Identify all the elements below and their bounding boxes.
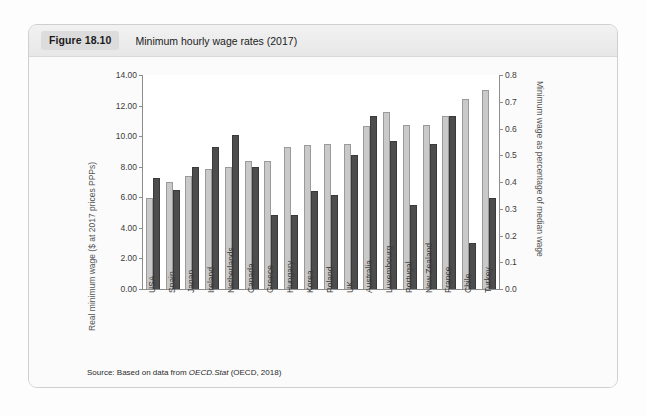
bar-group xyxy=(363,75,377,289)
y-axis-right-title: Minimum wage as percentage of median wag… xyxy=(535,81,545,257)
x-axis-label: Korea xyxy=(300,291,320,357)
figure-header: Figure 18.10 Minimum hourly wage rates (… xyxy=(29,25,617,57)
x-axis-label-text: Spain xyxy=(167,271,177,293)
bar-group xyxy=(482,75,496,289)
bar-group xyxy=(304,75,318,289)
y-tick-right: 0.7 xyxy=(505,97,517,107)
x-axis-label-text: Greece xyxy=(265,265,275,293)
y-tick-left: 0.00 xyxy=(120,284,137,294)
y-tick-right: 0.4 xyxy=(505,177,517,187)
x-axis-label: Hungary xyxy=(280,291,300,357)
x-axis-label-text: Turkey xyxy=(483,267,493,293)
bar-group xyxy=(284,75,298,289)
x-axis-labels: USASpainJapanIrelandNetherlandsCanadaGre… xyxy=(142,291,498,357)
x-axis-label: Ireland xyxy=(201,291,221,357)
y-tick-mark-left xyxy=(139,289,143,290)
x-axis-label-text: Chile xyxy=(463,274,473,293)
y-tick-right: 0.0 xyxy=(505,284,517,294)
plot-area: 0.002.004.006.008.0010.0012.0014.00 0.00… xyxy=(142,75,500,290)
bar-group xyxy=(245,75,259,289)
y-tick-left: 2.00 xyxy=(120,253,137,263)
x-axis-label: Chile xyxy=(458,291,478,357)
x-axis-label: Luxembourg xyxy=(379,291,399,357)
x-axis-label-text: Korea xyxy=(305,270,315,293)
y-tick-left: 10.00 xyxy=(116,131,137,141)
y-tick-mark-right xyxy=(499,236,503,237)
y-tick-left: 4.00 xyxy=(120,223,137,233)
x-axis-label: New Zealand xyxy=(419,291,439,357)
figure-number-badge: Figure 18.10 xyxy=(41,31,119,50)
x-axis-label: Poland xyxy=(320,291,340,357)
figure-body: Real minimum wage ($ at 2017 prices PPPs… xyxy=(29,57,617,388)
y-tick-mark-right xyxy=(499,209,503,210)
x-axis-label-text: Canada xyxy=(246,263,256,293)
x-axis-label: UK xyxy=(340,291,360,357)
chart: Real minimum wage ($ at 2017 prices PPPs… xyxy=(85,67,585,357)
x-axis-label-text: France xyxy=(443,267,453,293)
x-axis-label: Portugal xyxy=(399,291,419,357)
y-tick-mark-right xyxy=(499,155,503,156)
bar-group xyxy=(462,75,476,289)
y-tick-right: 0.3 xyxy=(505,204,517,214)
bar-groups xyxy=(143,75,499,289)
bar-real-minimum-wage xyxy=(442,116,449,289)
x-axis-label-text: Japan xyxy=(186,270,196,293)
x-axis-label: USA xyxy=(142,291,162,357)
bar-minimum-wage-percent-median xyxy=(153,178,160,289)
y-tick-mark-right xyxy=(499,102,503,103)
bar-group xyxy=(185,75,199,289)
x-axis-label-text: USA xyxy=(147,276,157,293)
bar-group xyxy=(264,75,278,289)
bar-real-minimum-wage xyxy=(344,144,351,289)
screenshot-root: Figure 18.10 Minimum hourly wage rates (… xyxy=(0,0,646,416)
y-tick-left: 14.00 xyxy=(116,70,137,80)
x-axis-label-text: Luxembourg xyxy=(384,246,394,293)
x-axis-label-text: Netherlands xyxy=(226,247,236,293)
bar-minimum-wage-percent-median xyxy=(351,155,358,289)
bar-real-minimum-wage xyxy=(482,90,489,289)
x-axis-label: France xyxy=(439,291,459,357)
bar-group xyxy=(324,75,338,289)
bar-group xyxy=(403,75,417,289)
x-axis-label-text: Hungary xyxy=(285,261,295,293)
y-tick-mark-right xyxy=(499,262,503,263)
y-tick-right: 0.1 xyxy=(505,257,517,267)
bar-group xyxy=(205,75,219,289)
bar-minimum-wage-percent-median xyxy=(449,116,456,289)
y-tick-mark-right xyxy=(499,289,503,290)
y-tick-right: 0.8 xyxy=(505,70,517,80)
y-tick-mark-right xyxy=(499,129,503,130)
source-prefix: Source: Based on data from xyxy=(87,368,189,377)
bar-group xyxy=(344,75,358,289)
bar-group xyxy=(442,75,456,289)
y-tick-left: 8.00 xyxy=(120,162,137,172)
x-axis-label: Japan xyxy=(182,291,202,357)
bar-group xyxy=(166,75,180,289)
y-tick-mark-right xyxy=(499,75,503,76)
y-axis-left-title: Real minimum wage ($ at 2017 prices PPPs… xyxy=(87,162,97,331)
x-axis-label: Australia xyxy=(360,291,380,357)
y-tick-right: 0.6 xyxy=(505,124,517,134)
bar-group xyxy=(146,75,160,289)
x-axis-label-text: Ireland xyxy=(206,267,216,293)
x-axis-label: Spain xyxy=(162,291,182,357)
x-axis-label-text: Poland xyxy=(325,267,335,293)
figure-panel: Figure 18.10 Minimum hourly wage rates (… xyxy=(28,24,618,388)
y-tick-right: 0.2 xyxy=(505,231,517,241)
x-axis-label: Turkey xyxy=(478,291,498,357)
source-suffix: (OECD, 2018) xyxy=(228,368,281,377)
x-axis-label: Canada xyxy=(241,291,261,357)
y-tick-mark-right xyxy=(499,182,503,183)
x-axis-label-text: UK xyxy=(345,281,355,293)
y-tick-right: 0.5 xyxy=(505,150,517,160)
y-tick-left: 6.00 xyxy=(120,192,137,202)
x-axis-label-text: Australia xyxy=(364,260,374,293)
x-axis-label-text: Portugal xyxy=(404,261,414,293)
x-axis-label: Greece xyxy=(261,291,281,357)
x-axis-label-text: New Zealand xyxy=(424,243,434,293)
source-italic: OECD.Stat xyxy=(189,368,229,377)
bar-real-minimum-wage xyxy=(304,145,311,289)
bar-real-minimum-wage xyxy=(462,99,469,289)
figure-caption: Minimum hourly wage rates (2017) xyxy=(135,35,297,47)
source-note: Source: Based on data from OECD.Stat (OE… xyxy=(87,368,281,377)
